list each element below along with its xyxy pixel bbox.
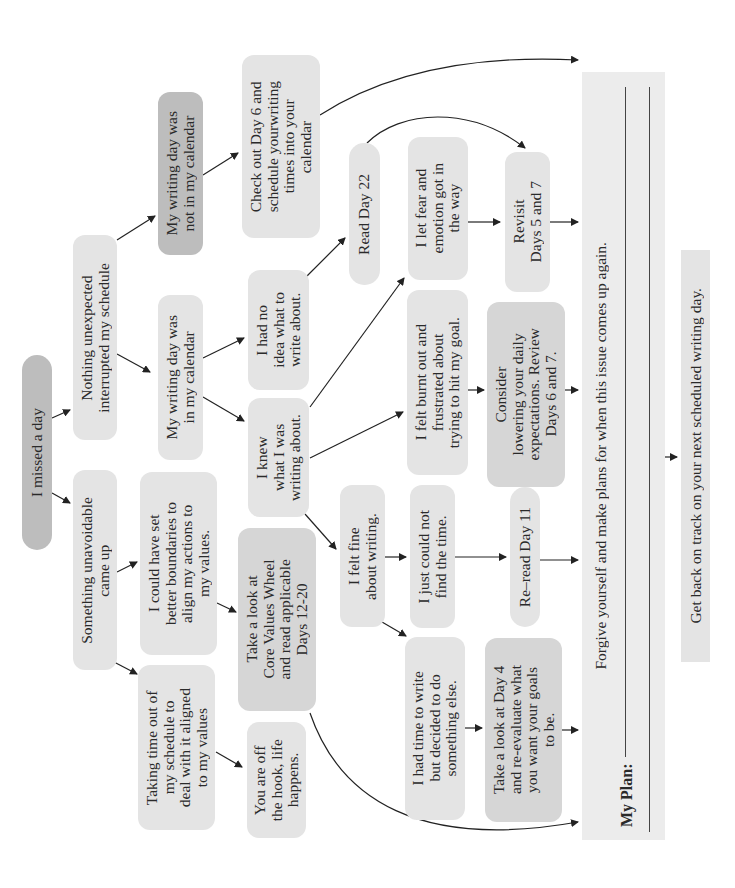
node-burnt-out: I felt burnt out and frustrated about tr…	[407, 290, 468, 475]
node-text: I had no idea what to write about.	[254, 292, 304, 368]
node-no-idea: I had no idea what to write about.	[248, 270, 309, 390]
node-text: My writing day was in my calendar	[164, 315, 197, 439]
node-get-back-on-track: Get back on track on your next scheduled…	[681, 250, 710, 662]
node-read-day22: Read Day 22	[349, 143, 380, 285]
node-text: Get back on track on your next scheduled…	[687, 288, 705, 624]
node-off-hook: You are off the hook, life happens.	[247, 722, 306, 838]
node-text: Consider lowering your daily expectation…	[493, 328, 559, 461]
node-text: Nothing unexpected interrupted my schedu…	[79, 263, 112, 413]
node-text: Read Day 22	[356, 174, 373, 255]
forgive-text-wrap: Forgive yourself and make plans for when…	[586, 72, 616, 840]
node-text: Something unavoidable came up	[79, 497, 112, 644]
node-nothing-unexpected: Nothing unexpected interrupted my schedu…	[73, 235, 117, 440]
node-better-boundaries: I could have set better boundaries to al…	[140, 472, 217, 655]
node-revisit-days: Revisit Days 5 and 7	[505, 152, 550, 292]
node-text: Re–read Day 11	[517, 507, 534, 607]
node-text: I just could not find the time.	[416, 510, 449, 603]
node-text: I could have set better boundaries to al…	[146, 502, 212, 625]
node-core-values: Take a look at Core Values Wheel and rea…	[238, 528, 316, 711]
node-knew-topic: I knew what I was writing about.	[248, 398, 309, 517]
node-text: I had time to write but decided to do so…	[410, 671, 460, 786]
node-had-time: I had time to write but decided to do so…	[405, 637, 465, 820]
node-missed-day: I missed a day	[22, 355, 52, 550]
node-text: My writing day was not in my calendar	[164, 111, 197, 235]
node-no-time: I just could not find the time.	[410, 485, 455, 628]
plan-write-line-2[interactable]	[649, 87, 650, 832]
node-text: Taking time out of my schedule to deal w…	[144, 688, 210, 807]
node-taking-time: Taking time out of my schedule to deal w…	[138, 665, 215, 830]
node-not-in-calendar: My writing day was not in my calendar	[158, 92, 203, 255]
node-text: Check out Day 6 and schedule yourwriting…	[248, 81, 314, 212]
node-felt-fine: I felt fine about writing.	[340, 485, 385, 627]
node-text: Take a look at Day 4 and re-evaluate wha…	[491, 665, 557, 794]
forgive-text: Forgive yourself and make plans for when…	[592, 242, 610, 670]
node-in-calendar: My writing day was in my calendar	[158, 295, 203, 460]
node-text: Revisit Days 5 and 7	[511, 181, 544, 262]
node-text: I knew what I was writing about.	[254, 414, 304, 501]
node-text: You are off the hook, life happens.	[252, 739, 302, 821]
node-text: I missed a day	[29, 408, 46, 497]
node-fear-emotion: I let fear and emotion got in the way	[408, 137, 468, 280]
my-plan-label: My Plan:	[618, 747, 636, 827]
node-consider-lowering: Consider lowering your daily expectation…	[487, 302, 565, 487]
node-something-unavoidable: Something unavoidable came up	[73, 470, 117, 670]
plan-write-line-1[interactable]	[625, 87, 626, 757]
node-text: I let fear and emotion got in the way	[413, 163, 463, 253]
node-text: I felt burnt out and frustrated about tr…	[413, 317, 463, 448]
node-reread-day11: Re–read Day 11	[510, 487, 540, 627]
node-check-day6: Check out Day 6 and schedule yourwriting…	[242, 55, 320, 238]
node-text: I felt fine about writing.	[346, 513, 379, 600]
forgive-plan-panel: Forgive yourself and make plans for when…	[582, 72, 665, 840]
node-day4: Take a look at Day 4 and re-evaluate wha…	[485, 638, 562, 822]
node-text: Take a look at Core Values Wheel and rea…	[244, 559, 310, 680]
